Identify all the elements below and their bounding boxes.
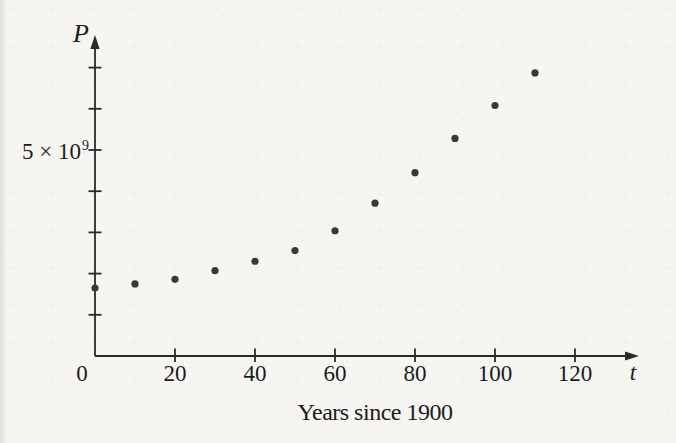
scatter-plot-canvas: 020406080100120 [0, 0, 676, 443]
y-axis-tick-label: 5 × 109 [22, 139, 89, 163]
data-point [131, 280, 138, 287]
data-point [91, 284, 98, 291]
data-point [451, 135, 458, 142]
y-axis-title: P [73, 21, 89, 47]
x-tick-label: 100 [478, 361, 513, 386]
data-point [251, 258, 258, 265]
x-tick-label: 20 [164, 361, 187, 386]
x-tick-label: 120 [558, 361, 593, 386]
population-scatter-figure: 020406080100120 P t 5 × 109 Years since … [0, 0, 676, 443]
x-tick-label: 80 [404, 361, 427, 386]
x-axis-title: t [630, 361, 636, 384]
y-axis-tick-label-base: 5 × 10 [22, 139, 81, 164]
data-point [331, 227, 338, 234]
data-point [291, 247, 298, 254]
data-point [531, 69, 538, 76]
x-tick-label: 60 [324, 361, 347, 386]
data-point [371, 200, 378, 207]
data-point [211, 267, 218, 274]
data-point [411, 169, 418, 176]
y-axis-arrowhead-icon [90, 35, 99, 49]
data-point [171, 276, 178, 283]
x-axis-caption: Years since 1900 [298, 400, 453, 424]
y-axis-tick-label-exponent: 9 [82, 138, 89, 153]
x-tick-label: 40 [244, 361, 267, 386]
data-point [491, 102, 498, 109]
data-points [91, 69, 538, 291]
x-tick-label: 0 [76, 361, 88, 386]
x-axis-tick-labels: 020406080100120 [76, 361, 592, 386]
